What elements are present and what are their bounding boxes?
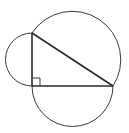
right-angle-marker — [32, 78, 40, 86]
right-triangle-semicircles-diagram — [0, 0, 129, 133]
semicircle-cb — [32, 86, 113, 127]
semicircle-ab — [32, 11, 121, 86]
semicircle-ac — [6, 33, 33, 86]
triangle-hypotenuse-ab — [32, 33, 113, 86]
